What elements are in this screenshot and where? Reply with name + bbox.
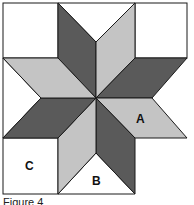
eight-point-star-quilt-block: A B C [0, 0, 194, 205]
corner-square-top-right [135, 3, 187, 58]
corner-square-top-left [3, 3, 58, 58]
figure-caption: Figure 4 [3, 197, 43, 205]
label-c: C [25, 159, 34, 173]
label-a: A [136, 112, 145, 126]
label-b: B [92, 174, 101, 188]
